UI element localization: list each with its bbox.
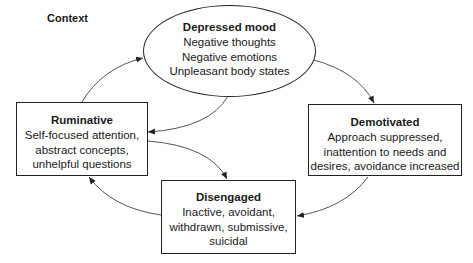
node-ruminative: Ruminative Self-focused attention, abstr…: [16, 102, 148, 176]
node-text-line: withdrawn, submissive,: [162, 220, 295, 235]
node-text-line: desires, avoidance increased: [309, 159, 461, 174]
arrow-ruminative-to-mood: [82, 58, 143, 102]
node-title: Ruminative: [17, 113, 147, 128]
node-text-line: Approach suppressed,: [309, 130, 461, 145]
arrow-demotivated-to-disengaged: [297, 177, 368, 216]
arrow-ruminative-to-disengaged: [148, 141, 227, 179]
node-text-line: Negative emotions: [144, 50, 315, 65]
arrow-mood-to-demotivated: [314, 60, 374, 103]
arrow-mood-to-ruminative: [148, 96, 228, 132]
node-text-line: suicidal: [162, 234, 295, 249]
arrow-disengaged-to-ruminative: [89, 177, 161, 215]
node-disengaged: Disengaged Inactive, avoidant, withdrawn…: [161, 180, 296, 254]
node-depressed-mood: Depressed mood Negative thoughts Negativ…: [143, 5, 316, 97]
node-text-line: Negative thoughts: [144, 35, 315, 50]
node-text-line: Self-focused attention,: [17, 128, 147, 143]
node-text-line: unhelpful questions: [17, 157, 147, 172]
node-title: Demotivated: [309, 115, 461, 130]
node-text-line: Unpleasant body states: [144, 64, 315, 79]
node-text-line: abstract concepts,: [17, 143, 147, 158]
node-demotivated: Demotivated Approach suppressed, inatten…: [308, 104, 462, 176]
node-text-line: inattention to needs and: [309, 145, 461, 160]
node-text-line: Inactive, avoidant,: [162, 205, 295, 220]
node-title: Depressed mood: [144, 20, 315, 35]
node-title: Disengaged: [162, 190, 295, 205]
